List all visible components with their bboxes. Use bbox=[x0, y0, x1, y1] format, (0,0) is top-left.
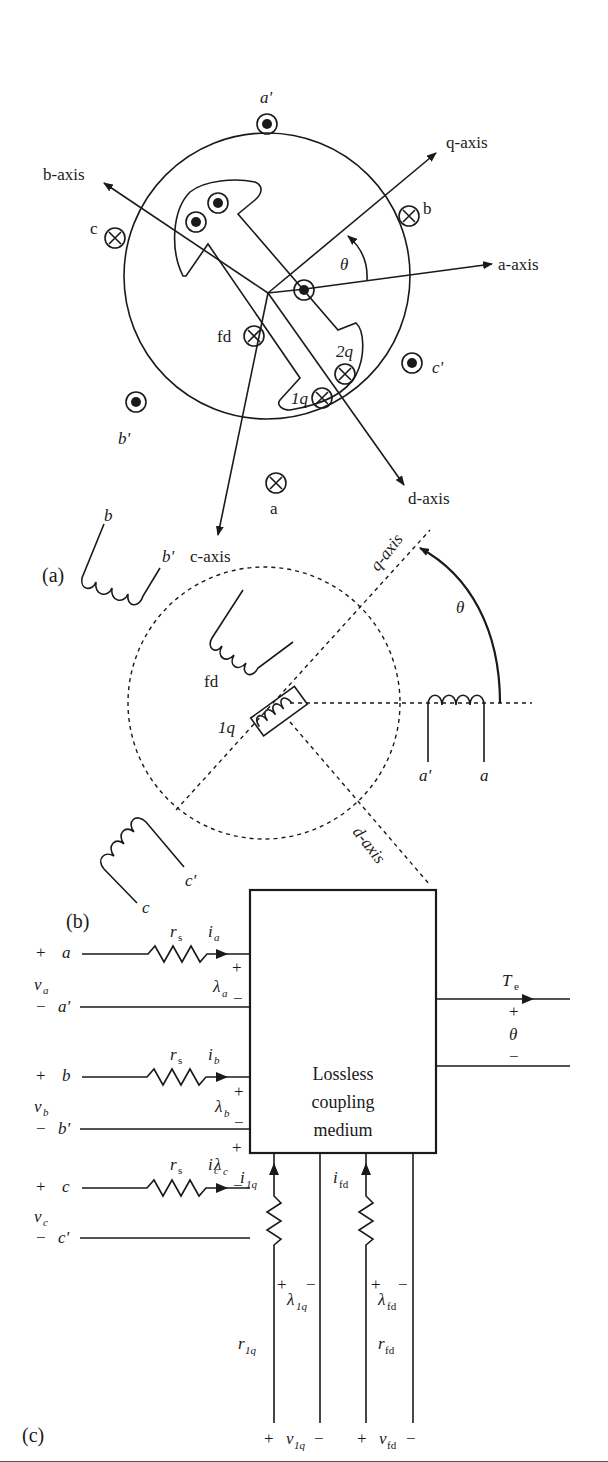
svg-text:−: − bbox=[306, 1275, 316, 1294]
svg-text:a: a bbox=[222, 987, 228, 999]
winding-b-prime-label: b' bbox=[162, 547, 175, 566]
svg-text:−: − bbox=[36, 997, 46, 1016]
b-axis-label: b-axis bbox=[43, 165, 85, 184]
svg-text:e: e bbox=[514, 980, 519, 992]
caption-b: (b) bbox=[66, 910, 89, 933]
q-axis-label: q-axis bbox=[446, 133, 488, 152]
caption-c: (c) bbox=[22, 1424, 44, 1447]
svg-text:v: v bbox=[34, 1097, 42, 1116]
svg-text:−: − bbox=[233, 989, 243, 1008]
svg-text:a: a bbox=[62, 943, 71, 962]
svg-text:a': a' bbox=[260, 88, 273, 107]
svg-text:c: c bbox=[223, 1165, 228, 1177]
svg-text:+: + bbox=[234, 1082, 244, 1101]
svg-text:v: v bbox=[379, 1429, 387, 1448]
svg-text:λ: λ bbox=[213, 1155, 221, 1174]
svg-text:b: b bbox=[214, 1054, 220, 1066]
svg-text:v: v bbox=[286, 1429, 294, 1448]
a-axis-label: a-axis bbox=[498, 255, 539, 274]
svg-text:b: b bbox=[423, 199, 432, 218]
winding-b bbox=[82, 524, 160, 605]
svg-text:−: − bbox=[314, 1429, 324, 1448]
svg-text:+: + bbox=[264, 1429, 274, 1448]
winding-1q bbox=[251, 686, 308, 736]
box-line-3: medium bbox=[314, 1120, 373, 1140]
svg-text:+: + bbox=[277, 1275, 287, 1294]
svg-text:b': b' bbox=[118, 429, 131, 448]
svg-text:fd: fd bbox=[217, 327, 232, 346]
svg-text:a: a bbox=[270, 499, 278, 518]
svg-text:r: r bbox=[238, 1334, 245, 1353]
svg-text:fd: fd bbox=[387, 1300, 397, 1312]
conductor-c-prime: c' bbox=[402, 353, 444, 377]
svg-text:−: − bbox=[36, 1119, 46, 1138]
svg-text:T: T bbox=[502, 971, 513, 990]
svg-text:s: s bbox=[178, 1054, 182, 1066]
svg-text:+: + bbox=[357, 1429, 367, 1448]
svg-text:λ: λ bbox=[212, 977, 220, 996]
winding-a-prime-label: a' bbox=[419, 766, 432, 785]
svg-text:b: b bbox=[224, 1107, 230, 1119]
svg-text:b: b bbox=[43, 1106, 49, 1118]
q-axis-label-b: q-axis bbox=[366, 530, 407, 575]
svg-text:1q: 1q bbox=[296, 1300, 308, 1312]
coupling-medium-box bbox=[250, 890, 436, 1153]
port-1q: + − i 1q λ 1q r 1q + v 1q − bbox=[238, 1153, 324, 1451]
conductor-a-prime: a' bbox=[257, 88, 277, 134]
svg-text:r: r bbox=[170, 922, 177, 941]
svg-text:r: r bbox=[170, 1045, 177, 1064]
svg-text:i: i bbox=[208, 1155, 213, 1174]
winding-1q-label: 1q bbox=[218, 718, 236, 737]
port-a: + a v a − a' r s i a + λ a − bbox=[34, 922, 250, 1016]
svg-text:c: c bbox=[62, 1177, 70, 1196]
caption-a: (a) bbox=[42, 564, 64, 587]
svg-text:r: r bbox=[378, 1334, 385, 1353]
svg-text:−: − bbox=[406, 1429, 416, 1448]
svg-text:s: s bbox=[178, 1164, 182, 1176]
winding-fd-label: fd bbox=[204, 672, 219, 691]
winding-fd bbox=[210, 590, 293, 675]
svg-text:s: s bbox=[178, 931, 182, 943]
svg-text:a: a bbox=[214, 931, 220, 943]
d-axis-line bbox=[268, 293, 404, 485]
svg-text:λ: λ bbox=[286, 1290, 294, 1309]
winding-c-prime-label: c' bbox=[185, 871, 197, 890]
winding-b-label: b bbox=[104, 506, 113, 525]
svg-text:1q: 1q bbox=[246, 1178, 258, 1190]
port-fd: + − i fd λ fd r fd + v fd − bbox=[333, 1153, 416, 1451]
port-c: + c v c − c' r s i c + λ c − bbox=[34, 1138, 250, 1247]
svg-text:i: i bbox=[208, 922, 213, 941]
conductor-2q: 2q bbox=[335, 342, 355, 384]
conductor-b-prime: b' bbox=[118, 392, 146, 448]
svg-text:1q: 1q bbox=[245, 1344, 257, 1356]
box-line-1: Lossless bbox=[312, 1064, 373, 1084]
conductor-a: a bbox=[266, 473, 286, 518]
d-axis-label-b: d-axis bbox=[349, 823, 390, 868]
svg-text:i: i bbox=[240, 1168, 245, 1187]
rotor-dot-conductors bbox=[186, 193, 314, 300]
c-axis-label: c-axis bbox=[190, 547, 231, 566]
svg-text:b': b' bbox=[58, 1119, 71, 1138]
svg-text:+: + bbox=[36, 1066, 46, 1085]
svg-text:c': c' bbox=[58, 1228, 70, 1247]
svg-text:λ: λ bbox=[214, 1097, 222, 1116]
svg-text:fd: fd bbox=[339, 1178, 349, 1190]
svg-text:−: − bbox=[36, 1228, 46, 1247]
svg-text:v: v bbox=[34, 975, 42, 994]
q-axis-dashed bbox=[176, 530, 430, 810]
svg-text:c': c' bbox=[432, 358, 444, 377]
q-axis-line bbox=[268, 153, 436, 293]
theta-arc bbox=[348, 236, 367, 280]
svg-text:−: − bbox=[234, 1113, 244, 1132]
winding-c-label: c bbox=[142, 898, 150, 917]
svg-text:r: r bbox=[170, 1155, 177, 1174]
box-line-2: coupling bbox=[312, 1092, 375, 1112]
svg-text:+: + bbox=[36, 943, 46, 962]
port-b: + b v b − b' r s i b + λ b − bbox=[34, 1045, 250, 1138]
panel-c: Lossless coupling medium + a v a − a' r … bbox=[22, 890, 570, 1451]
svg-text:+: + bbox=[232, 1138, 242, 1157]
svg-text:2q: 2q bbox=[336, 342, 354, 361]
theta-arc-b bbox=[420, 548, 500, 703]
svg-text:fd: fd bbox=[387, 1439, 397, 1451]
winding-a bbox=[428, 695, 484, 762]
